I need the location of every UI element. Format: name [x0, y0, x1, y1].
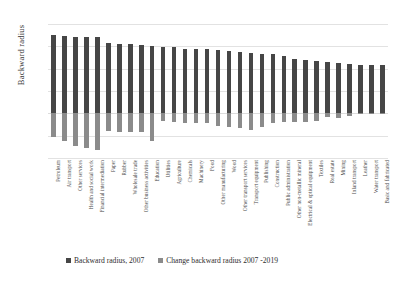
- x-axis-tick-label: Agriculture: [176, 160, 182, 185]
- x-axis-tick-label: Paper: [110, 160, 116, 172]
- x-axis-tick-label: Other business activities: [143, 160, 149, 212]
- bar-column: [139, 24, 144, 158]
- bar-negative: [95, 113, 100, 150]
- bar-column: [172, 24, 177, 158]
- bar-positive: [51, 35, 56, 113]
- bar-column: [227, 24, 232, 158]
- x-axis-tick-label: Publishing: [263, 160, 269, 183]
- bar-negative: [128, 113, 133, 132]
- bar-negative: [271, 113, 276, 123]
- x-axis-tick-label: Petroleum: [55, 160, 61, 182]
- bar-negative: [139, 113, 144, 132]
- y-axis-title: Backward radius: [16, 0, 26, 110]
- bar-positive: [84, 37, 89, 113]
- x-axis-tick-label: Food: [209, 160, 215, 171]
- bar-column: [314, 24, 319, 158]
- bar-positive: [292, 59, 297, 114]
- bar-positive: [238, 52, 243, 113]
- bar-negative: [216, 113, 221, 125]
- chart-figure: Backward radius 0.80.60.40.20.0-0.2-0.4 …: [0, 0, 396, 287]
- bar-column: [358, 24, 363, 158]
- bar-negative: [347, 113, 352, 115]
- x-axis-tick-label: Utilities: [165, 160, 171, 177]
- x-axis-tick-label: Financial intermediation: [99, 160, 105, 212]
- bar-positive: [172, 47, 177, 113]
- bar-column: [292, 24, 297, 158]
- x-axis-tick-labels: PetroleumAir transportOther servicesHeal…: [48, 160, 388, 238]
- bar-column: [84, 24, 89, 158]
- bar-negative: [62, 113, 67, 141]
- bar-column: [216, 24, 221, 158]
- gridline: [48, 158, 388, 159]
- x-axis-tick-label: Real estate: [329, 160, 335, 183]
- legend-label: Change backward radius 2007 -2019: [166, 256, 278, 265]
- x-axis-tick-label: Public administration: [285, 160, 291, 206]
- bar-column: [325, 24, 330, 158]
- bar-negative: [183, 113, 188, 123]
- bar-negative: [292, 113, 297, 122]
- bar-positive: [271, 54, 276, 113]
- bar-positive: [260, 54, 265, 113]
- bar-column: [260, 24, 265, 158]
- bar-column: [128, 24, 133, 158]
- bar-negative: [51, 113, 56, 136]
- bar-negative: [369, 113, 374, 114]
- x-axis-tick-label: Rubber: [121, 160, 127, 176]
- x-axis-tick-label: Construction: [274, 160, 280, 188]
- legend-swatch-icon: [66, 258, 71, 263]
- bar-negative: [150, 113, 155, 141]
- x-axis-tick-label: Mining: [340, 160, 346, 176]
- bar-positive: [139, 45, 144, 113]
- bar-positive: [358, 65, 363, 113]
- bar-positive: [380, 65, 385, 113]
- bar-positive: [161, 47, 166, 113]
- bar-positive: [73, 37, 78, 113]
- bar-positive: [183, 49, 188, 114]
- x-axis-tick-label: Water transport: [373, 160, 379, 193]
- x-axis-tick-label: Machinery: [198, 160, 204, 183]
- bar-positive: [216, 50, 221, 114]
- x-axis-tick-label: Education: [154, 160, 160, 182]
- bar-column: [161, 24, 166, 158]
- bar-negative: [161, 113, 166, 121]
- x-axis-tick-label: Health and social work: [88, 160, 94, 209]
- bar-positive: [303, 60, 308, 114]
- bar-negative: [325, 113, 330, 116]
- bar-positive: [227, 51, 232, 114]
- bar-column: [205, 24, 210, 158]
- bar-negative: [172, 113, 177, 122]
- bar-column: [183, 24, 188, 158]
- bar-column: [73, 24, 78, 158]
- bar-column: [238, 24, 243, 158]
- bar-positive: [117, 44, 122, 113]
- bar-positive: [194, 49, 199, 114]
- legend-item-change-backward-radius: Change backward radius 2007 -2019: [158, 256, 278, 265]
- x-axis-tick-label: Basic and fabricated: [384, 160, 390, 204]
- bar-negative: [117, 113, 122, 132]
- bar-column: [150, 24, 155, 158]
- bar-positive: [249, 53, 254, 113]
- x-axis-tick-label: Electrical & optical equipment: [307, 160, 313, 226]
- bar-positive: [347, 64, 352, 113]
- bar-negative: [336, 113, 341, 117]
- bar-column: [106, 24, 111, 158]
- bar-negative: [303, 113, 308, 122]
- bar-negative: [194, 113, 199, 123]
- bar-column: [303, 24, 308, 158]
- x-axis-tick-label: Chemicals: [187, 160, 193, 182]
- bar-negative: [380, 113, 385, 114]
- bar-column: [51, 24, 56, 158]
- legend-item-backward-radius-2007: Backward radius, 2007: [66, 256, 144, 265]
- x-axis-tick-label: Wood: [231, 160, 237, 172]
- chart-legend: Backward radius, 2007 Change backward ra…: [66, 256, 278, 265]
- bar-column: [117, 24, 122, 158]
- bar-column: [380, 24, 385, 158]
- bar-negative: [358, 113, 363, 114]
- bar-positive: [106, 43, 111, 113]
- bar-negative: [73, 113, 78, 145]
- legend-swatch-icon: [158, 258, 163, 263]
- x-axis-tick-label: Other services: [77, 160, 83, 191]
- legend-label: Backward radius, 2007: [74, 256, 144, 265]
- bar-negative: [205, 113, 210, 123]
- x-axis-tick-label: Wholesale trade: [132, 160, 138, 194]
